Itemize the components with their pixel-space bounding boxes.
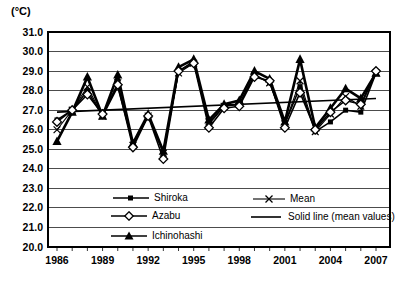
svg-text:2001: 2001 xyxy=(273,254,297,266)
svg-text:2007: 2007 xyxy=(364,254,388,266)
svg-text:29.0: 29.0 xyxy=(23,65,44,77)
svg-text:26.0: 26.0 xyxy=(23,123,44,135)
temperature-trend-figure: (°C) 20.021.022.023.024.025.026.027.028.… xyxy=(0,0,401,283)
chart-plot: 20.021.022.023.024.025.026.027.028.029.0… xyxy=(0,0,401,283)
svg-text:1986: 1986 xyxy=(45,254,69,266)
svg-text:25.0: 25.0 xyxy=(23,143,44,155)
svg-text:2004: 2004 xyxy=(319,254,343,266)
svg-text:1998: 1998 xyxy=(228,254,252,266)
svg-text:1989: 1989 xyxy=(91,254,115,266)
svg-text:21.0: 21.0 xyxy=(23,221,44,233)
svg-text:30.0: 30.0 xyxy=(23,45,44,57)
svg-text:24.0: 24.0 xyxy=(23,162,44,174)
svg-text:1992: 1992 xyxy=(136,254,160,266)
svg-text:31.0: 31.0 xyxy=(23,26,44,38)
svg-text:22.0: 22.0 xyxy=(23,201,44,213)
svg-text:28.0: 28.0 xyxy=(23,84,44,96)
svg-text:1995: 1995 xyxy=(182,254,206,266)
svg-text:20.0: 20.0 xyxy=(23,241,44,253)
svg-text:23.0: 23.0 xyxy=(23,182,44,194)
svg-text:27.0: 27.0 xyxy=(23,104,44,116)
